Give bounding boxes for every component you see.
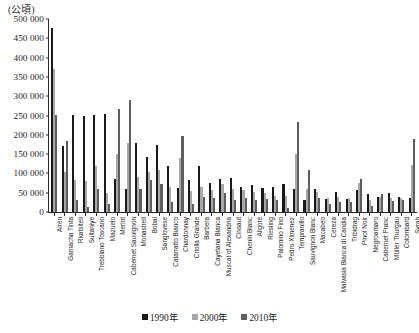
x-axis-tick-cell: [175, 213, 186, 216]
bar-group: [154, 19, 165, 212]
bar-group: [186, 19, 197, 212]
legend-label: 1990年: [150, 310, 178, 324]
bar-y2010: [329, 204, 331, 212]
bar-group: [249, 19, 260, 212]
bar-y2010: [224, 193, 226, 212]
x-axis-label-cell: Chenin Blanc: [238, 217, 249, 315]
x-axis-tick-cell: [70, 213, 81, 216]
x-axis-tick-cell: [238, 213, 249, 216]
legend-entry[interactable]: 2000年: [192, 310, 228, 324]
x-axis-tick-cell: [207, 213, 218, 216]
x-axis-tick-mark: [106, 213, 107, 216]
x-axis-tick-mark: [64, 213, 65, 216]
legend-swatch-icon: [192, 314, 198, 320]
x-axis-tick-cell: [291, 213, 302, 216]
x-axis-label-cell: Palomino Fino: [270, 217, 281, 315]
x-axis-label-cell: Monastrell: [133, 217, 144, 315]
x-axis-tick-cell: [154, 213, 165, 216]
x-axis-tick-mark: [233, 213, 234, 216]
x-axis-label-cell: Rkatsiteli: [70, 217, 81, 315]
bar-y2010: [55, 115, 57, 212]
bar-y2010: [318, 198, 320, 212]
x-axis-tick-cell: [228, 213, 239, 216]
x-axis-tick-mark: [117, 213, 118, 216]
legend-swatch-icon: [241, 314, 247, 320]
x-axis-tick-cell: [165, 213, 176, 216]
x-axis-tick-cell: [49, 213, 60, 216]
chart-legend: 1990年2000年2010年: [0, 310, 419, 324]
x-axis-label-cell: Trebbiano Toscano: [91, 217, 102, 315]
bar-y2010: [381, 194, 383, 212]
bar-group: [375, 19, 386, 212]
bar-group: [238, 19, 249, 212]
x-axis-tick-cell: [280, 213, 291, 216]
x-axis-label-cell: Tempranillo: [291, 217, 302, 315]
bar-group: [112, 19, 123, 212]
x-axis-tick-cell: [196, 213, 207, 216]
x-axis-label-cell: Syrah: [407, 217, 418, 315]
legend-entry[interactable]: 1990年: [142, 310, 178, 324]
bar-group: [49, 19, 60, 212]
bar-group: [280, 19, 291, 212]
x-axis-label-cell: Criolla Grande: [186, 217, 197, 315]
x-axis-label-cell: Negroamaro: [364, 217, 375, 315]
x-axis-tick-mark: [369, 213, 370, 216]
y-axis-tick-label: 100 000: [13, 168, 44, 178]
x-axis-tick-mark: [411, 213, 412, 216]
x-axis-label-cell: Chardonnay: [175, 217, 186, 315]
legend-entry[interactable]: 2010年: [241, 310, 277, 324]
x-axis-tick-mark: [264, 213, 265, 216]
x-axis-tick-cell: [123, 213, 134, 216]
x-axis-tick-mark: [359, 213, 360, 216]
x-axis-tick-cell: [186, 213, 197, 216]
x-axis-tick-cell: [60, 213, 71, 216]
bar-y2010: [87, 207, 89, 212]
x-axis-tick-mark: [85, 213, 86, 216]
bar-y2010: [371, 206, 373, 212]
x-axis-tick-mark: [54, 213, 55, 216]
x-axis-tick-cell: [407, 213, 418, 216]
x-axis-label-cell: Sangiovese: [154, 217, 165, 315]
x-axis-tick-cell: [217, 213, 228, 216]
bar-y2010: [97, 189, 99, 212]
bars-container: [49, 19, 417, 212]
bar-y2010: [392, 201, 394, 212]
x-axis-tick-mark: [190, 213, 191, 216]
y-axis: 500 000450 000400 000350 000300 000250 0…: [0, 14, 46, 213]
x-axis-tick-mark: [296, 213, 297, 216]
x-axis-tick-cell: [396, 213, 407, 216]
bar-y2010: [245, 198, 247, 212]
y-axis-tick-label: 50 000: [18, 188, 44, 198]
y-axis-tick-label: 0: [39, 207, 44, 217]
x-axis-tick-cell: [112, 213, 123, 216]
x-axis-label-cell: Cereza: [322, 217, 333, 315]
bar-group: [301, 19, 312, 212]
x-axis-tick-cell: [301, 213, 312, 216]
y-axis-tick-label: 450 000: [13, 33, 44, 43]
x-axis-tick-cell: [91, 213, 102, 216]
x-axis-label-cell: Cabernet Sauvignon: [123, 217, 134, 315]
x-axis-label-cell: Malvasia Bianca di Candia: [333, 217, 344, 315]
bar-y2010: [402, 200, 404, 212]
bar-group: [102, 19, 113, 212]
x-axis-tick-cell: [343, 213, 354, 216]
bar-y2010: [413, 139, 415, 212]
y-axis-tick-label: 300 000: [13, 91, 44, 101]
legend-swatch-icon: [142, 314, 148, 320]
x-axis-label-cell: Macabeo: [312, 217, 323, 315]
bar-y2010: [76, 200, 78, 212]
y-axis-tick-label: 150 000: [13, 149, 44, 159]
bar-y2010: [108, 204, 110, 212]
x-axis-tick-cell: [270, 213, 281, 216]
bar-chart: (公頃) 500 000450 000400 000350 000300 000…: [0, 0, 419, 333]
bar-group: [312, 19, 323, 212]
bar-group: [196, 19, 207, 212]
x-axis-tick-mark: [243, 213, 244, 216]
x-axis-tick-mark: [401, 213, 402, 216]
bar-y2010: [150, 180, 152, 212]
x-axis-tick-mark: [317, 213, 318, 216]
x-axis-label-cell: Catarratto Bianco: [165, 217, 176, 315]
y-axis-tick-label: 350 000: [13, 72, 44, 82]
x-axis-tick-cell: [259, 213, 270, 216]
bar-group: [91, 19, 102, 212]
